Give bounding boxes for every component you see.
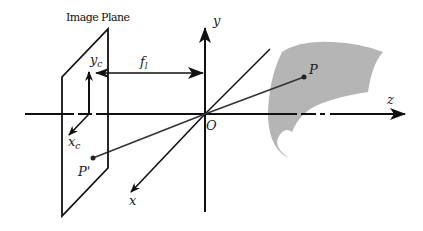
image-x-label: xc [68, 134, 80, 151]
pinhole-camera-diagram: Image Plane y z x O fl yc xc P P' [0, 0, 423, 231]
field-of-view-line [205, 49, 270, 114]
image-y-subscript: c [97, 59, 102, 69]
image-y-label: yc [89, 52, 102, 69]
image-plane [62, 29, 108, 216]
focal-length-subscript: l [145, 61, 148, 71]
image-x-subscript: c [75, 141, 80, 151]
x-axis-label: x [129, 193, 137, 208]
x-axis [131, 114, 205, 192]
origin-label: O [206, 118, 217, 133]
point-p-prime-label: P' [77, 164, 90, 179]
ray-origin-to-p-prime [93, 114, 205, 158]
object-surface [268, 42, 383, 158]
image-x-axis [69, 114, 89, 135]
point-p-label: P [308, 62, 318, 77]
z-axis-label: z [386, 92, 394, 107]
point-p-prime [91, 156, 96, 161]
image-plane-label: Image Plane [66, 11, 130, 24]
y-axis-label: y [212, 13, 221, 28]
point-p [302, 75, 307, 80]
focal-length-label: fl [139, 54, 148, 71]
